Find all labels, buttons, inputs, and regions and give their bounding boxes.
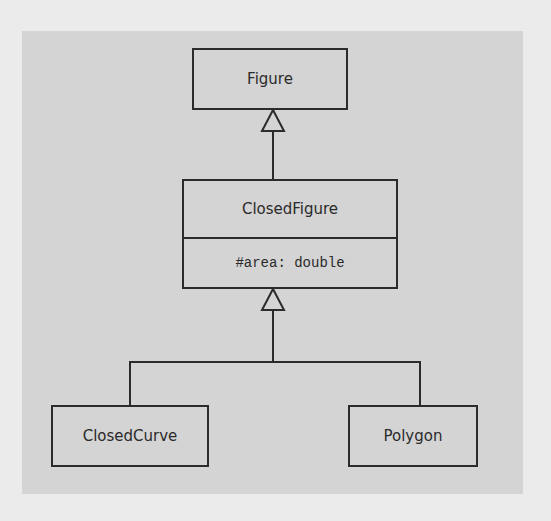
class-name-polygon: Polygon bbox=[384, 427, 443, 445]
class-figure: Figure bbox=[192, 48, 348, 110]
attribute-area: #area: double bbox=[184, 239, 396, 287]
class-polygon: Polygon bbox=[348, 405, 478, 467]
class-closedfigure: ClosedFigure #area: double bbox=[182, 179, 398, 289]
generalization-arrow-subclasses-to-closedfigure bbox=[130, 289, 420, 406]
generalization-arrow-closedfigure-to-figure bbox=[262, 110, 284, 180]
hollow-triangle-icon bbox=[262, 289, 284, 310]
class-name-closedcurve: ClosedCurve bbox=[83, 427, 178, 445]
class-closedcurve: ClosedCurve bbox=[51, 405, 209, 467]
class-name-figure: Figure bbox=[247, 70, 293, 88]
class-name-closedfigure: ClosedFigure bbox=[184, 181, 396, 239]
hollow-triangle-icon bbox=[262, 110, 284, 131]
